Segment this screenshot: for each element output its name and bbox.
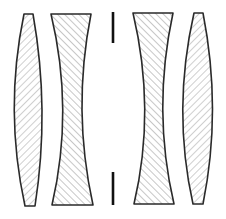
lens-3-biconcave <box>133 13 174 204</box>
lens-4-biconvex <box>183 13 213 204</box>
lens-1-biconvex <box>14 14 42 206</box>
lens-2-biconcave <box>51 14 93 205</box>
lens-system-diagram <box>0 0 226 219</box>
